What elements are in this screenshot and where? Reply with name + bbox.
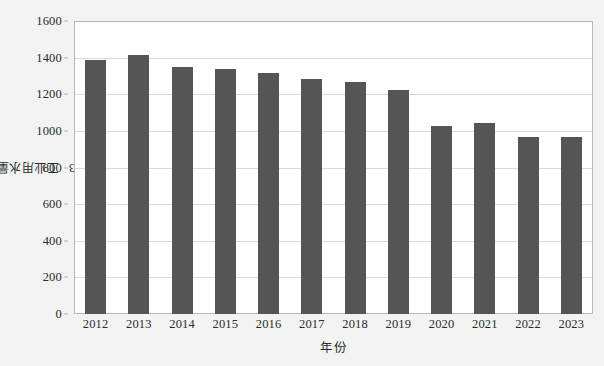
- y-axis-tick-mark: [64, 21, 68, 22]
- y-axis-tick-mark: [64, 240, 68, 241]
- bar[interactable]: [301, 79, 322, 314]
- bar[interactable]: [128, 55, 149, 314]
- y-axis-tick-label: 800: [43, 160, 62, 175]
- bar[interactable]: [172, 67, 193, 314]
- y-axis-tick-labels: 02004006008001000120014001600: [0, 21, 68, 314]
- y-axis-tick-mark: [64, 130, 68, 131]
- x-axis-tick-label: 2012: [83, 317, 109, 332]
- x-axis-tick-label: 2020: [429, 317, 455, 332]
- x-axis-tick-labels: 2012201320142015201620172018201920202021…: [74, 317, 593, 337]
- y-axis-tick-label: 600: [43, 197, 62, 212]
- x-axis-tick-label: 2023: [558, 317, 584, 332]
- bar[interactable]: [474, 123, 495, 314]
- y-axis-tick-label: 200: [43, 270, 62, 285]
- x-axis-tick-label: 2015: [212, 317, 238, 332]
- y-axis-tick-mark: [64, 204, 68, 205]
- y-axis-tick-label: 1200: [36, 87, 62, 102]
- y-axis-tick-mark: [64, 167, 68, 168]
- y-axis-tick-label: 0: [56, 307, 62, 322]
- y-axis-tick-label: 1000: [36, 123, 62, 138]
- x-axis-tick-label: 2016: [256, 317, 282, 332]
- bar[interactable]: [215, 69, 236, 314]
- y-axis-tick-mark: [64, 94, 68, 95]
- x-axis-tick-label: 2017: [299, 317, 325, 332]
- y-axis-tick-mark: [64, 277, 68, 278]
- x-axis-tick-label: 2018: [342, 317, 368, 332]
- x-axis-tick-label: 2014: [169, 317, 195, 332]
- y-axis-tick-mark: [64, 57, 68, 58]
- bar-chart-figure: 工业用水量 / 亿 m3 020040060080010001200140016…: [0, 0, 604, 366]
- x-axis-tick-label: 2021: [472, 317, 498, 332]
- y-axis-tick-label: 1400: [36, 50, 62, 65]
- x-axis-tick-label: 2022: [515, 317, 541, 332]
- bar[interactable]: [561, 137, 582, 314]
- bar[interactable]: [345, 82, 366, 314]
- x-axis-tick-label: 2013: [126, 317, 152, 332]
- bar[interactable]: [258, 73, 279, 314]
- bar[interactable]: [85, 60, 106, 314]
- y-axis-tick-label: 1600: [36, 14, 62, 29]
- x-axis-tick-label: 2019: [385, 317, 411, 332]
- bar[interactable]: [518, 137, 539, 314]
- bar[interactable]: [388, 90, 409, 315]
- y-axis-tick-mark: [64, 314, 68, 315]
- x-axis-title: 年份: [74, 337, 593, 356]
- bars-layer: [74, 21, 593, 314]
- y-axis-tick-label: 400: [43, 233, 62, 248]
- bar[interactable]: [431, 126, 452, 314]
